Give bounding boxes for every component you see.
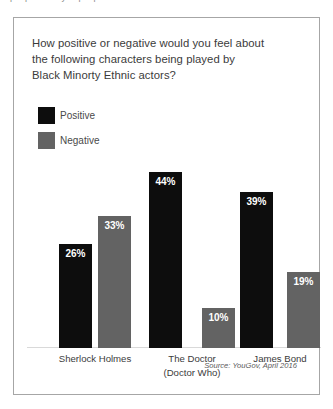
bar-sherlock-holmes-positive: 26% bbox=[59, 244, 92, 348]
plot-area: 26% 33% 44% 10% 39% 19% bbox=[27, 155, 321, 348]
bar-value-james-bond-negative: 19% bbox=[287, 276, 320, 287]
bar-sherlock-holmes-negative: 33% bbox=[98, 216, 131, 348]
legend-item-positive: Positive bbox=[38, 106, 99, 125]
legend-swatch-negative bbox=[38, 132, 55, 149]
legend-label-positive: Positive bbox=[60, 110, 95, 121]
bar-value-the-doctor-positive: 44% bbox=[149, 176, 182, 187]
bar-value-james-bond-positive: 39% bbox=[240, 196, 273, 207]
legend-swatch-positive bbox=[38, 107, 55, 124]
bar-value-the-doctor-negative: 10% bbox=[202, 312, 235, 323]
legend-label-negative: Negative bbox=[60, 135, 99, 146]
clipped-header-strip: people survey of people about the charac… bbox=[0, 0, 333, 8]
chart-container: How positive or negative would you feel … bbox=[13, 17, 320, 395]
chart-title-line-3: Black Minorty Ethnic actors? bbox=[32, 67, 304, 83]
bar-the-doctor-positive: 44% bbox=[149, 172, 182, 348]
legend-item-negative: Negative bbox=[38, 131, 99, 150]
chart-title: How positive or negative would you feel … bbox=[32, 35, 304, 84]
bar-the-doctor-negative: 10% bbox=[202, 308, 235, 348]
category-label-sherlock-holmes-line-1: Sherlock Holmes bbox=[47, 352, 143, 366]
bar-group-sherlock-holmes: 26% 33% bbox=[59, 155, 131, 348]
chart-title-line-1: How positive or negative would you feel … bbox=[32, 35, 304, 51]
bar-group-the-doctor: 44% 10% bbox=[149, 155, 235, 348]
bar-group-james-bond: 39% 19% bbox=[240, 155, 320, 348]
category-label-sherlock-holmes: Sherlock Holmes bbox=[47, 352, 143, 366]
chart-title-line-2: the following characters being played by bbox=[32, 51, 304, 67]
chart-legend: Positive Negative bbox=[38, 106, 99, 156]
clipped-header-text: people survey of people about the charac… bbox=[10, 0, 190, 2]
bar-value-sherlock-holmes-negative: 33% bbox=[98, 220, 131, 231]
chart-source: Source: YouGov, April 2016 bbox=[204, 361, 297, 370]
bar-james-bond-negative: 19% bbox=[287, 272, 320, 348]
category-axis-labels: Sherlock Holmes The Doctor (Doctor Who) … bbox=[27, 352, 321, 392]
bar-james-bond-positive: 39% bbox=[240, 192, 273, 348]
bar-value-sherlock-holmes-positive: 26% bbox=[59, 248, 92, 259]
